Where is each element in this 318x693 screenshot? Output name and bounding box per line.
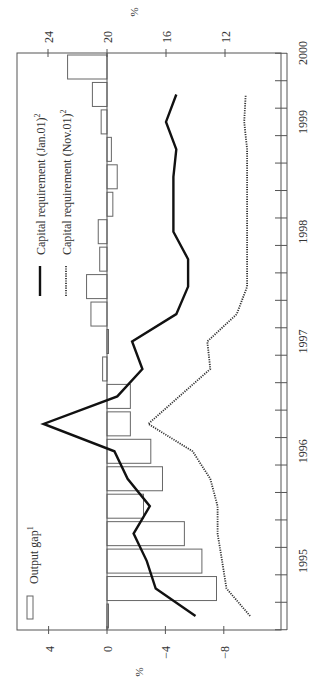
output-gap-bar bbox=[103, 357, 107, 381]
output-gap-bar bbox=[100, 247, 107, 271]
output-gap-bar bbox=[101, 110, 107, 134]
legend-superscript: 2 bbox=[59, 109, 68, 113]
output-gap-bar bbox=[107, 577, 217, 601]
right-axis-tick-label: 16 bbox=[160, 31, 174, 43]
output-gap-bar bbox=[91, 302, 107, 326]
right-axis-tick-label: 12 bbox=[219, 31, 233, 43]
output-gap-bar bbox=[92, 82, 107, 106]
date-axis-year-label: 1996 bbox=[296, 439, 310, 463]
output-gap-bar bbox=[107, 165, 117, 189]
left-axis-tick-label: −8 bbox=[218, 646, 232, 659]
date-axis-year-label: 1998 bbox=[296, 220, 310, 244]
output-gap-bar bbox=[107, 192, 113, 216]
output-gap-bar bbox=[107, 522, 184, 546]
left-axis-label: % bbox=[133, 667, 145, 676]
right-axis-tick-label: 24 bbox=[42, 31, 56, 43]
output-gap-bar bbox=[107, 137, 111, 161]
output-gap-bar bbox=[98, 220, 107, 244]
rotated-chart: 40−4−8%24201612%199519961997199819992000… bbox=[0, 0, 318, 693]
output-gap-bar bbox=[107, 494, 144, 518]
output-gap-bars bbox=[68, 55, 217, 628]
legend-bar-swatch bbox=[27, 596, 33, 619]
output-gap-bar bbox=[87, 275, 107, 299]
legend-superscript: 2 bbox=[33, 113, 42, 117]
date-axis-year-label: 1995 bbox=[296, 549, 310, 573]
legend-output-gap-label: Output gap1 bbox=[26, 526, 41, 584]
legend-nov01-label: Capital requirement (Nov.01)2 bbox=[59, 109, 74, 255]
date-axis-year-label: 1997 bbox=[296, 330, 310, 354]
legend-jan01-label: Capital requirement (Jan.01)2 bbox=[33, 113, 48, 255]
legend: Output gap1Capital requirement (Jan.01)2… bbox=[26, 109, 74, 619]
left-axis-tick-label: 0 bbox=[101, 646, 115, 652]
output-gap-bar bbox=[107, 412, 130, 436]
output-gap-bar bbox=[68, 55, 107, 79]
left-axis-tick-label: 4 bbox=[43, 646, 57, 652]
right-axis-label: % bbox=[128, 7, 140, 16]
legend-superscript: 1 bbox=[26, 526, 35, 530]
date-axis-year-label: 1999 bbox=[296, 110, 310, 134]
output-gap-bar bbox=[107, 549, 202, 573]
date-axis-year-label: 2000 bbox=[296, 41, 310, 65]
left-axis-tick-label: −4 bbox=[159, 646, 173, 659]
right-axis-tick-label: 20 bbox=[101, 31, 115, 43]
